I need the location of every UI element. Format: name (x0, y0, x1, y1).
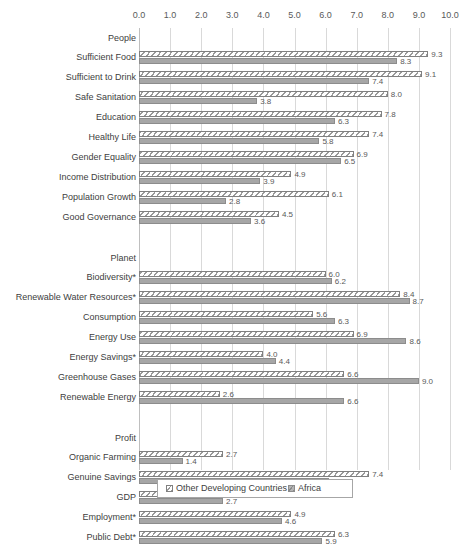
bar-series-1 (139, 511, 291, 517)
bar-group: 8.03.8 (139, 91, 472, 106)
category-row: Sufficient to Drink9.17.4 (0, 68, 472, 88)
chart-legend: Other Developing Countries Africa (157, 479, 353, 498)
category-row: Energy Use6.98.6 (0, 328, 472, 348)
category-row: Energy Savings*4.04.4 (0, 348, 472, 368)
category-label: Sufficient Food (2, 51, 136, 63)
bar-group: 4.93.9 (139, 171, 472, 186)
bar-series-2 (139, 378, 419, 384)
bar-group: 7.45.8 (139, 131, 472, 146)
bar-value-label: 5.8 (322, 137, 333, 146)
legend-label: Other Developing Countries (176, 483, 287, 493)
bar-series-1 (139, 131, 369, 137)
bar-group: 6.12.8 (139, 191, 472, 206)
bar-series-1 (139, 371, 344, 377)
bar-series-2 (139, 58, 397, 64)
category-label: Income Distribution (2, 171, 136, 183)
x-axis-tick-label: 9.0 (413, 10, 426, 20)
bar-series-2 (139, 178, 260, 184)
x-axis-tick-label: 4.0 (257, 10, 270, 20)
bar-value-label: 4.4 (279, 357, 290, 366)
bar-value-label: 6.6 (347, 397, 358, 406)
bar-series-2 (139, 278, 332, 284)
category-label: Education (2, 111, 136, 123)
legend-swatch-icon (166, 485, 173, 492)
bar-series-2 (139, 538, 322, 544)
bar-value-label: 6.2 (335, 277, 346, 286)
category-row: Income Distribution4.93.9 (0, 168, 472, 188)
bar-value-label: 3.8 (260, 97, 271, 106)
bar-group: 6.69.0 (139, 371, 472, 386)
bar-series-2 (139, 458, 183, 464)
category-label: Sufficient to Drink (2, 71, 136, 83)
bar-value-label: 1.4 (186, 457, 197, 466)
category-row: Renewable Energy2.66.6 (0, 388, 472, 408)
x-axis-tick-label: 0.0 (133, 10, 146, 20)
bar-group: 8.48.7 (139, 291, 472, 306)
group-label: Profit (2, 432, 136, 444)
x-axis-tick-label: 1.0 (164, 10, 177, 20)
bar-series-2 (139, 498, 223, 504)
bar-series-2 (139, 398, 344, 404)
bar-value-label: 9.1 (425, 70, 436, 79)
bar-series-1 (139, 331, 354, 337)
category-row: Organic Farming2.71.4 (0, 448, 472, 468)
category-row: Greenhouse Gases6.69.0 (0, 368, 472, 388)
bar-series-2 (139, 358, 276, 364)
bar-value-label: 4.6 (285, 517, 296, 526)
bar-value-label: 2.8 (229, 197, 240, 206)
category-label: Employment* (2, 511, 136, 523)
bar-value-label: 6.1 (332, 190, 343, 199)
bar-value-label: 7.8 (385, 110, 396, 119)
category-label: Energy Use (2, 331, 136, 343)
bar-value-label: 5.9 (325, 537, 336, 546)
category-row: Safe Sanitation8.03.8 (0, 88, 472, 108)
bar-series-2 (139, 318, 335, 324)
bar-series-1 (139, 311, 313, 317)
bar-value-label: 8.3 (400, 57, 411, 66)
x-axis-tick-label: 10.0 (441, 10, 459, 20)
x-axis-tick-label: 6.0 (319, 10, 332, 20)
category-row: Renewable Water Resources*8.48.7 (0, 288, 472, 308)
bar-value-label: 7.4 (372, 130, 383, 139)
bar-value-label: 9.3 (431, 50, 442, 59)
legend-swatch-icon (288, 485, 295, 492)
category-row: Sufficient Food9.38.3 (0, 48, 472, 68)
category-label: GDP (2, 491, 136, 503)
group-label: Planet (2, 252, 136, 264)
bar-series-1 (139, 531, 335, 537)
bar-group: 4.94.6 (139, 511, 472, 526)
group-label: People (2, 32, 136, 44)
category-row: Biodiversity*6.06.2 (0, 268, 472, 288)
bar-value-label: 4.5 (282, 210, 293, 219)
bar-series-2 (139, 218, 251, 224)
category-label: Renewable Water Resources* (2, 291, 136, 303)
category-label: Good Governance (2, 211, 136, 223)
category-label: Energy Savings* (2, 351, 136, 363)
bar-value-label: 6.9 (357, 150, 368, 159)
bar-series-2 (139, 298, 410, 304)
bar-series-1 (139, 291, 400, 297)
x-axis-tick-label: 7.0 (350, 10, 363, 20)
bar-group: 2.71.4 (139, 451, 472, 466)
bar-series-2 (139, 198, 226, 204)
category-row: Good Governance4.53.6 (0, 208, 472, 228)
bar-group: 6.35.9 (139, 531, 472, 546)
bar-value-label: 7.4 (372, 470, 383, 479)
chart-plot-area: PeopleSufficient Food9.38.3Sufficient to… (0, 28, 472, 470)
bar-value-label: 3.6 (254, 217, 265, 226)
category-label: Population Growth (2, 191, 136, 203)
category-label: Healthy Life (2, 131, 136, 143)
bar-value-label: 8.0 (391, 90, 402, 99)
bar-series-2 (139, 158, 341, 164)
bar-group: 7.86.3 (139, 111, 472, 126)
bar-series-1 (139, 271, 326, 277)
bar-group: 9.17.4 (139, 71, 472, 86)
bar-value-label: 6.5 (344, 157, 355, 166)
category-row: Consumption5.66.3 (0, 308, 472, 328)
bar-value-label: 6.3 (338, 317, 349, 326)
bar-series-2 (139, 138, 319, 144)
category-label: Organic Farming (2, 451, 136, 463)
x-axis-tick-labels: 0.01.02.03.04.05.06.07.08.09.010.0 (0, 10, 472, 24)
bar-group: 4.04.4 (139, 351, 472, 366)
bar-value-label: 2.7 (226, 497, 237, 506)
